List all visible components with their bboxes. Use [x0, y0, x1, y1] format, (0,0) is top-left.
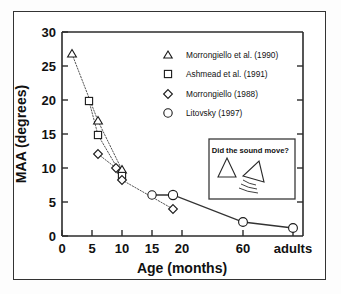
x-axis-ticks [62, 230, 293, 236]
x-tick-label: 10 [115, 241, 129, 256]
triangle-marker [164, 51, 172, 58]
legend-label: Morrongiello et al. (1990) [186, 50, 278, 60]
diamond-marker [164, 90, 173, 99]
triangle-marker [94, 117, 103, 125]
y-axis-title: MAA (degrees) [13, 85, 29, 183]
circle-marker [289, 224, 298, 233]
circle-marker [164, 109, 172, 117]
y-axis-tick-labels: 0 5 10 15 20 25 30 [42, 25, 56, 244]
chart-legend: Morrongiello et al. (1990) Ashmead et al… [164, 50, 279, 118]
inset-caption: Did the sound move? [212, 146, 290, 155]
figure-container: 0 5 10 15 20 25 30 MAA (degrees) 0 5 10 … [0, 0, 341, 294]
square-marker [94, 131, 101, 138]
circle-marker [239, 218, 248, 227]
circle-marker [148, 191, 156, 199]
circle-marker [168, 190, 177, 199]
y-tick-label: 20 [42, 93, 56, 108]
x-axis-tick-labels: 0 5 10 15 20 60 adults [58, 241, 312, 256]
square-marker [164, 70, 171, 77]
x-tick-label: 15 [145, 241, 159, 256]
series-line-morrongiello-1988 [98, 154, 173, 209]
x-tick-label: 20 [175, 241, 189, 256]
legend-item-morrongiello-1990: Morrongiello et al. (1990) [164, 50, 279, 60]
y-tick-label: 30 [42, 25, 56, 40]
legend-label: Ashmead et al. (1991) [186, 69, 268, 79]
legend-label: Litovsky (1997) [186, 108, 242, 118]
legend-label: Morrongiello (1988) [186, 89, 258, 99]
x-tick-label: 0 [58, 241, 65, 256]
y-tick-label: 10 [42, 161, 56, 176]
y-tick-label: 5 [49, 195, 56, 210]
x-axis-title: Age (months) [137, 260, 227, 276]
diamond-marker [94, 150, 103, 159]
inset-illustration: Did the sound move? [209, 139, 295, 199]
diamond-marker [169, 205, 178, 214]
legend-item-litovsky-1997: Litovsky (1997) [164, 108, 243, 118]
square-marker [85, 97, 92, 104]
chart-canvas: 0 5 10 15 20 25 30 MAA (degrees) 0 5 10 … [0, 0, 341, 294]
y-tick-label: 0 [49, 229, 56, 244]
legend-item-morrongiello-1988: Morrongiello (1988) [164, 89, 259, 99]
y-tick-label: 15 [42, 127, 56, 142]
x-tick-label: adults [274, 241, 312, 256]
x-tick-label: 5 [88, 241, 95, 256]
legend-item-ashmead-1991: Ashmead et al. (1991) [164, 69, 267, 79]
x-tick-label: 60 [236, 241, 250, 256]
y-tick-label: 25 [42, 59, 56, 74]
triangle-marker [68, 50, 77, 58]
